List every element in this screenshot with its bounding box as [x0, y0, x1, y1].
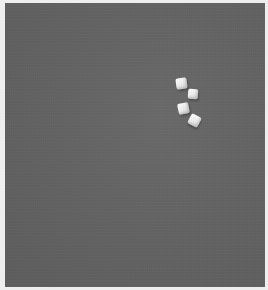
- sugar-cube: [175, 77, 187, 89]
- sugar-cube: [177, 102, 190, 115]
- photo-background: [5, 3, 265, 287]
- photo-frame: [0, 0, 268, 290]
- sugar-cube: [188, 89, 199, 100]
- sugar-cube: [187, 113, 202, 128]
